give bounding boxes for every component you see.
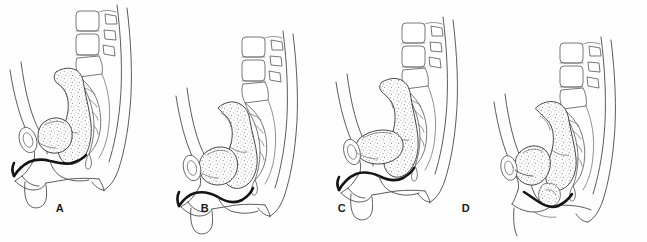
vertebral-column-b <box>242 37 283 104</box>
urinary-bladder-b <box>199 147 237 185</box>
panel-d <box>486 0 647 242</box>
panel-label-c: C <box>322 202 362 214</box>
pubic-symphysis-b <box>181 153 204 182</box>
vertebral-column-a <box>76 11 117 78</box>
urinary-bladder-d <box>515 146 551 185</box>
panel-label-d: D <box>446 202 486 214</box>
vertebral-column-c <box>402 23 443 90</box>
pubic-symphysis-a <box>16 125 40 155</box>
panel-label-b: B <box>185 202 225 214</box>
anatomy-figure: A B C D <box>0 0 647 242</box>
panel-a <box>0 0 162 242</box>
urinary-bladder-c <box>356 130 403 164</box>
panel-label-a: A <box>40 202 80 214</box>
vertebral-column-d <box>560 43 601 110</box>
